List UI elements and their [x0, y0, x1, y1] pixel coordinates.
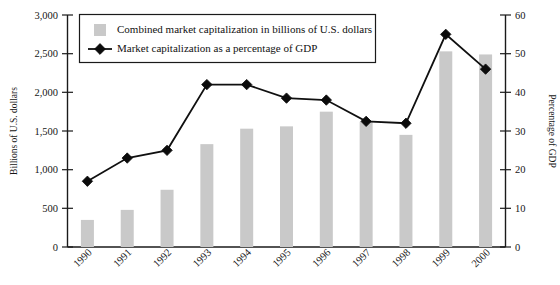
bar-1993 [200, 144, 213, 247]
bar-1990 [81, 220, 94, 247]
right-tick-label-60: 60 [515, 10, 526, 21]
bar-1998 [399, 135, 412, 247]
legend-label-bars: Combined market capitalization in billio… [117, 23, 372, 35]
right-tick-label-20: 20 [515, 164, 526, 175]
right-tick-label-40: 40 [515, 87, 526, 98]
left-tick-label-2000: 2,000 [34, 87, 58, 98]
left-axis-title: Billions of U.S. dollars [9, 87, 19, 175]
bar-1996 [320, 112, 333, 247]
bar-1992 [161, 190, 174, 247]
right-tick-label-10: 10 [515, 203, 526, 214]
bar-2000 [479, 54, 492, 247]
bar-1999 [439, 51, 452, 247]
legend-label-gdp: Market capitalization as a percentage of… [117, 42, 317, 54]
left-tick-label-500: 500 [42, 203, 58, 214]
market-capitalization-chart: 0 500 1,000 1,500 2,000 2,500 3,000 0 10… [0, 0, 560, 285]
legend: Combined market capitalization in billio… [80, 15, 376, 63]
left-tick-label-1500: 1,500 [34, 126, 58, 137]
right-tick-label-30: 30 [515, 126, 526, 137]
bar-1994 [240, 129, 253, 247]
left-tick-label-3000: 3,000 [34, 10, 58, 21]
bar-1995 [280, 126, 293, 247]
legend-swatch-bars [94, 24, 106, 36]
legend-box [80, 15, 376, 63]
left-tick-label-2500: 2,500 [34, 48, 58, 59]
left-tick-label-0: 0 [53, 242, 58, 253]
right-tick-label-0: 0 [515, 242, 520, 253]
bar-1997 [360, 122, 373, 247]
right-tick-label-50: 50 [515, 48, 526, 59]
bar-1991 [121, 210, 134, 247]
left-tick-label-1000: 1,000 [34, 164, 58, 175]
chart-container: 0 500 1,000 1,500 2,000 2,500 3,000 0 10… [0, 0, 560, 285]
right-axis-title: Percentage of GDP [547, 94, 557, 167]
